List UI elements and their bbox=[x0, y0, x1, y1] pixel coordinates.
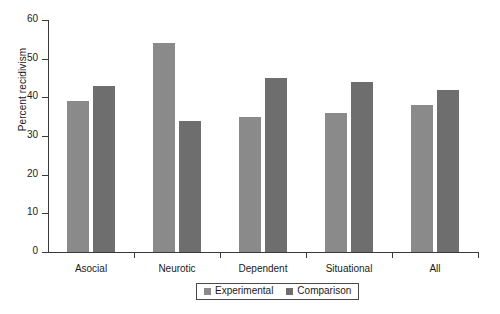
bar-dependent-comparison bbox=[265, 78, 287, 252]
x-axis-label-all: All bbox=[429, 263, 440, 274]
recidivism-bar-chart: Percent recidivism 0102030405060 Asocial… bbox=[0, 0, 500, 314]
y-axis-tick: 60 bbox=[42, 20, 48, 21]
y-axis-tick: 0 bbox=[42, 252, 48, 253]
bar-situational-experimental bbox=[325, 113, 347, 252]
y-axis-tick: 50 bbox=[42, 59, 48, 60]
y-axis-tick-label: 60 bbox=[27, 13, 38, 24]
y-axis-tick-label: 10 bbox=[27, 206, 38, 217]
legend-item-comparison[interactable]: Comparison bbox=[286, 286, 351, 296]
y-axis-tick-label: 20 bbox=[27, 168, 38, 179]
bar-all-experimental bbox=[411, 105, 433, 252]
legend-swatch-experimental bbox=[204, 288, 211, 295]
y-axis-tick-label: 50 bbox=[27, 52, 38, 63]
legend-label-comparison: Comparison bbox=[297, 286, 351, 296]
y-axis-tick: 40 bbox=[42, 97, 48, 98]
chart-legend: Experimental Comparison bbox=[196, 283, 359, 300]
x-axis-tick bbox=[306, 252, 307, 258]
y-axis-tick-label: 0 bbox=[32, 245, 38, 256]
y-axis-tick: 10 bbox=[42, 213, 48, 214]
x-axis-tick bbox=[392, 252, 393, 258]
bar-asocial-experimental bbox=[67, 101, 89, 252]
y-axis-tick: 30 bbox=[42, 136, 48, 137]
bar-neurotic-experimental bbox=[153, 43, 175, 252]
x-axis-label-neurotic: Neurotic bbox=[158, 263, 195, 274]
y-axis-tick-label: 40 bbox=[27, 90, 38, 101]
x-axis-label-asocial: Asocial bbox=[75, 263, 107, 274]
bar-neurotic-comparison bbox=[179, 121, 201, 252]
legend-swatch-comparison bbox=[286, 288, 293, 295]
x-axis-label-dependent: Dependent bbox=[239, 263, 288, 274]
legend-item-experimental[interactable]: Experimental bbox=[204, 286, 273, 296]
y-axis-label: Percent recidivism bbox=[17, 20, 28, 160]
y-axis-tick: 20 bbox=[42, 175, 48, 176]
legend-label-experimental: Experimental bbox=[215, 286, 273, 296]
x-axis-label-situational: Situational bbox=[326, 263, 373, 274]
y-axis-line bbox=[48, 20, 49, 253]
x-axis-tick bbox=[478, 252, 479, 258]
bar-situational-comparison bbox=[351, 82, 373, 252]
bar-all-comparison bbox=[437, 90, 459, 252]
bar-dependent-experimental bbox=[239, 117, 261, 252]
bar-asocial-comparison bbox=[93, 86, 115, 252]
x-axis-tick bbox=[220, 252, 221, 258]
y-axis-tick-label: 30 bbox=[27, 129, 38, 140]
x-axis-tick bbox=[134, 252, 135, 258]
plot-area: 0102030405060 AsocialNeuroticDependentSi… bbox=[48, 20, 478, 252]
x-axis-line bbox=[48, 252, 478, 253]
